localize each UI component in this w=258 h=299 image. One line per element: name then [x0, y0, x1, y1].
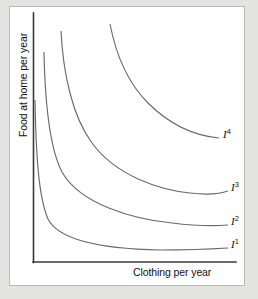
curve-label-i1-superscript: 1 [235, 237, 239, 246]
curve-label-i2-superscript: 2 [235, 214, 239, 223]
y-axis-label: Food at home per year [17, 25, 29, 145]
curve-label-i2: I2 [231, 214, 239, 227]
curve-label-i3-superscript: 3 [235, 180, 239, 189]
curve-label-i1: I1 [231, 237, 239, 250]
x-axis-label: Clothing per year [133, 266, 211, 278]
chart-panel [9, 6, 245, 286]
indifference-curve-figure: Food at home per year Clothing per year … [0, 0, 258, 299]
curve-label-i4-superscript: 4 [227, 127, 231, 136]
curve-label-i4: I4 [223, 127, 231, 140]
curve-label-i3: I3 [231, 180, 239, 193]
